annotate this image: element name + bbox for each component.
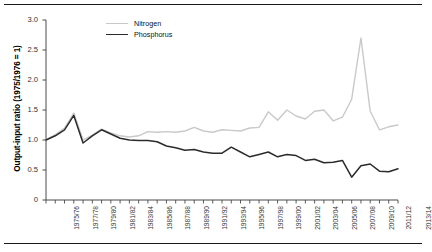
- x-tick-marks: [46, 200, 398, 204]
- legend-item-phosphorus: Phosphorus: [106, 29, 226, 40]
- chart-legend: Nitrogen Phosphorus: [106, 18, 226, 40]
- series-line-nitrogen: [46, 38, 398, 140]
- axis-lines: [46, 20, 398, 200]
- legend-label-nitrogen: Nitrogen: [134, 19, 161, 28]
- legend-label-phosphorus: Phosphorus: [134, 30, 172, 39]
- line-swatch-icon: [106, 23, 128, 24]
- line-swatch-icon: [106, 34, 128, 35]
- y-tick-marks: [43, 20, 47, 200]
- series-line-phosphorus: [46, 115, 398, 177]
- data-series-group: [46, 38, 398, 177]
- legend-item-nitrogen: Nitrogen: [106, 18, 226, 29]
